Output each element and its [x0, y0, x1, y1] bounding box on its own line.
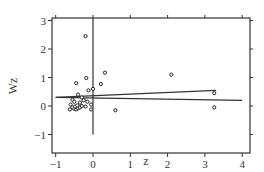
data-point [75, 82, 78, 85]
y-axis-ticks: −10123 [34, 15, 253, 141]
x-tick-label: 3 [202, 158, 208, 170]
data-point [114, 109, 117, 112]
x-tick-label: 4 [239, 158, 245, 170]
x-axis-label: z [143, 154, 148, 168]
data-point [76, 93, 79, 96]
data-point [76, 104, 79, 107]
data-point [103, 71, 106, 74]
data-point [68, 108, 71, 111]
x-tick-label: 2 [165, 158, 171, 170]
data-point [90, 108, 93, 111]
scatter-plot: −101234 −10123 z Wz [0, 0, 264, 172]
y-tick-label: −1 [34, 129, 46, 141]
y-tick-label: 3 [41, 15, 47, 27]
data-point [78, 101, 81, 104]
data-point [84, 105, 87, 108]
y-axis-label: Wz [6, 78, 20, 95]
data-point [80, 104, 83, 107]
data-point [91, 87, 94, 90]
plot-frame [52, 18, 250, 153]
data-point [90, 103, 93, 106]
x-tick-label: 1 [128, 158, 134, 170]
data-point [213, 92, 216, 95]
x-tick-label: −1 [50, 158, 62, 170]
data-point [87, 89, 90, 92]
x-tick-label: 0 [90, 158, 96, 170]
data-points [68, 35, 216, 112]
plot-border [52, 18, 250, 153]
data-point [85, 76, 88, 79]
y-tick-label: 2 [41, 43, 47, 55]
data-point [84, 35, 87, 38]
y-tick-label: 0 [41, 100, 47, 112]
data-point [170, 73, 173, 76]
data-point [99, 82, 102, 85]
data-point [213, 106, 216, 109]
data-point [73, 100, 76, 103]
y-tick-label: 1 [41, 72, 47, 84]
data-point [86, 100, 89, 103]
data-point [82, 99, 85, 102]
